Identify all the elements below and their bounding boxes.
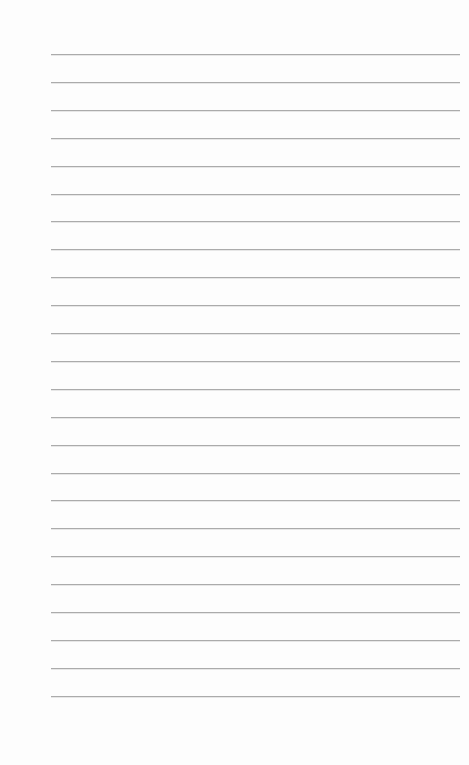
ruled-line (51, 500, 460, 501)
ruled-line (51, 389, 460, 390)
lined-paper-page (0, 0, 469, 765)
ruled-line (51, 138, 460, 139)
ruled-line (51, 249, 460, 250)
ruled-line (51, 361, 460, 362)
ruled-line (51, 528, 460, 529)
ruled-line (51, 221, 460, 222)
ruled-line (51, 556, 460, 557)
ruled-line (51, 305, 460, 306)
ruled-line (51, 110, 460, 111)
ruled-line (51, 640, 460, 641)
ruled-line (51, 417, 460, 418)
ruled-line (51, 166, 460, 167)
ruled-line (51, 696, 460, 697)
ruled-line (51, 473, 460, 474)
ruled-line (51, 333, 460, 334)
ruled-line (51, 277, 460, 278)
ruled-line (51, 445, 460, 446)
ruled-line (51, 668, 460, 669)
ruled-line (51, 54, 460, 55)
ruled-line (51, 82, 460, 83)
ruled-line (51, 194, 460, 195)
ruled-line (51, 584, 460, 585)
ruled-line (51, 612, 460, 613)
